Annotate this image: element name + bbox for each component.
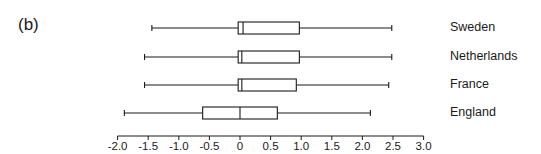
iqr-box <box>238 79 296 91</box>
category-label: Sweden <box>450 20 495 34</box>
box-england <box>124 107 370 119</box>
box-sweden <box>152 22 392 34</box>
tick-label: -2.0 <box>108 140 128 152</box>
category-label: Netherlands <box>450 49 517 63</box>
tick-label: 1.0 <box>293 140 309 152</box>
box-france <box>145 79 389 91</box>
tick-label: 2.5 <box>385 140 401 152</box>
box-series <box>124 22 391 119</box>
category-label: England <box>450 105 496 119</box>
category-label: France <box>450 77 489 91</box>
tick-label: 0.5 <box>263 140 279 152</box>
iqr-box <box>238 22 299 34</box>
tick-label: -1.5 <box>138 140 158 152</box>
tick-label: -0.5 <box>199 140 219 152</box>
tick-label: -1.0 <box>169 140 189 152</box>
x-axis: -2.0-1.5-1.0-0.500.51.01.52.02.53.0 <box>108 136 432 152</box>
tick-label: 0 <box>237 140 243 152</box>
iqr-box <box>238 51 299 63</box>
box-netherlands <box>145 51 392 63</box>
tick-label: 2.0 <box>354 140 370 152</box>
tick-label: 3.0 <box>416 140 432 152</box>
tick-label: 1.5 <box>324 140 340 152</box>
